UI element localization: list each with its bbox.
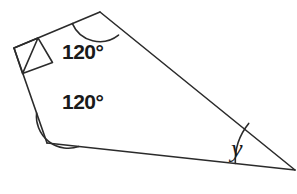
right-angle-square-marker [14, 38, 53, 74]
angle-arc-top [72, 24, 118, 42]
geometry-figure: 120° 120° y [0, 0, 297, 194]
angle-label-bottom-left: 120° [62, 91, 103, 112]
figure-canvas [0, 0, 297, 194]
edge-apex-to-right [100, 12, 295, 170]
angle-label-y-variable: y [231, 136, 243, 162]
edge-right-to-bottom [47, 143, 295, 170]
angle-label-top: 120° [62, 41, 103, 62]
